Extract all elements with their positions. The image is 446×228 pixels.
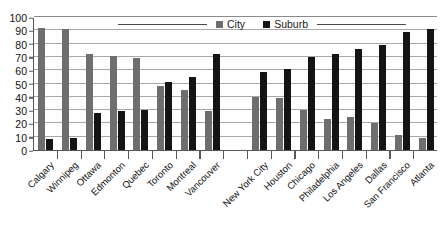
- y-axis-tick: 40: [15, 93, 33, 104]
- bar-group: [390, 18, 414, 150]
- y-axis: 1009080706050403020100: [0, 18, 33, 151]
- legend-item-city: City: [207, 19, 254, 30]
- y-axis-tick-mark: [29, 31, 33, 32]
- bar-group: [367, 18, 391, 150]
- y-axis-tick: 70: [15, 53, 33, 64]
- bar-suburb: [284, 69, 291, 150]
- bar-group: [153, 18, 177, 150]
- bar-city: [300, 110, 307, 150]
- bar-city: [110, 56, 117, 150]
- bar-group: [343, 18, 367, 150]
- y-axis-tick-label: 50: [15, 79, 27, 90]
- bar-suburb: [189, 77, 196, 150]
- y-axis-tick: 80: [15, 39, 33, 50]
- bar-city: [157, 86, 164, 150]
- y-axis-tick: 60: [15, 66, 33, 77]
- legend-swatch-city: [216, 21, 223, 28]
- bar-city: [324, 119, 331, 150]
- bar-suburb: [94, 113, 101, 150]
- y-axis-tick-label: 100: [9, 13, 27, 24]
- bar-suburb: [379, 45, 386, 150]
- legend-swatch-suburb: [263, 21, 270, 28]
- bar-suburb: [213, 54, 220, 150]
- y-axis-tick-mark: [29, 44, 33, 45]
- bar-city: [133, 58, 140, 150]
- bar-city: [419, 138, 426, 150]
- bar-city: [395, 135, 402, 150]
- bar-city: [181, 90, 188, 150]
- bar-city: [62, 29, 69, 150]
- bar-city: [86, 54, 93, 150]
- plot-area: [33, 18, 437, 151]
- y-axis-tick-label: 10: [15, 132, 27, 143]
- y-axis-tick-label: 60: [15, 66, 27, 77]
- bar-group: [272, 18, 296, 150]
- y-axis-tick: 20: [15, 119, 33, 130]
- y-axis-tick-mark: [29, 17, 33, 18]
- bar-suburb: [46, 139, 53, 150]
- bar-city: [252, 97, 259, 150]
- bar-suburb: [165, 82, 172, 150]
- y-axis-tick-mark: [29, 71, 33, 72]
- y-axis-tick: 30: [15, 106, 33, 117]
- y-axis-tick-label: 80: [15, 39, 27, 50]
- y-axis-tick-mark: [29, 137, 33, 138]
- bar-suburb: [260, 72, 267, 150]
- bar-group: [414, 18, 438, 150]
- bar-group: [319, 18, 343, 150]
- y-axis-tick-label: 40: [15, 93, 27, 104]
- y-axis-tick-label: 0: [21, 146, 27, 157]
- y-axis-tick-label: 30: [15, 106, 27, 117]
- bar-series-container: [34, 18, 437, 150]
- bar-city: [205, 111, 212, 150]
- bar-city: [347, 117, 354, 150]
- legend-item-suburb: Suburb: [254, 19, 317, 30]
- y-axis-tick-label: 90: [15, 26, 27, 37]
- bar-group: [105, 18, 129, 150]
- bar-group: [34, 18, 58, 150]
- y-axis-tick-mark: [29, 57, 33, 58]
- x-axis-labels: CalgaryWinnipegOttawaEdmontonQuebecToron…: [33, 151, 437, 228]
- bar-group: [295, 18, 319, 150]
- y-axis-tick-label: 20: [15, 119, 27, 130]
- bar-suburb: [70, 138, 77, 150]
- y-axis-tick: 0: [21, 146, 33, 157]
- bar-group: [82, 18, 106, 150]
- bar-group: [177, 18, 201, 150]
- bar-suburb: [141, 110, 148, 150]
- bar-suburb: [427, 29, 434, 150]
- bar-group: [248, 18, 272, 150]
- y-axis-tick: 90: [15, 26, 33, 37]
- bar-suburb: [332, 54, 339, 150]
- bar-group: [200, 18, 224, 150]
- chart-legend: City Suburb: [118, 16, 406, 32]
- bar-suburb: [308, 57, 315, 150]
- legend-rule-left: [118, 24, 207, 25]
- legend-label-suburb: Suburb: [274, 19, 308, 30]
- bar-group: [129, 18, 153, 150]
- bar-group: [58, 18, 82, 150]
- y-axis-tick-mark: [29, 84, 33, 85]
- bar-suburb: [355, 49, 362, 150]
- y-axis-tick-label: 70: [15, 53, 27, 64]
- y-axis-tick-mark: [29, 124, 33, 125]
- bar-city: [371, 123, 378, 150]
- x-axis-label: Atlanta: [408, 160, 436, 188]
- bar-city: [38, 28, 45, 150]
- legend-rule-right: [317, 24, 406, 25]
- y-axis-tick-mark: [29, 97, 33, 98]
- y-axis-tick: 100: [9, 13, 33, 24]
- y-axis-tick-mark: [29, 110, 33, 111]
- bar-suburb: [403, 32, 410, 150]
- y-axis-tick: 50: [15, 79, 33, 90]
- bar-suburb: [118, 111, 125, 150]
- legend-label-city: City: [227, 19, 245, 30]
- bar-city: [276, 98, 283, 150]
- bar-chart: City Suburb 1009080706050403020100 Calga…: [0, 0, 446, 228]
- y-axis-tick: 10: [15, 132, 33, 143]
